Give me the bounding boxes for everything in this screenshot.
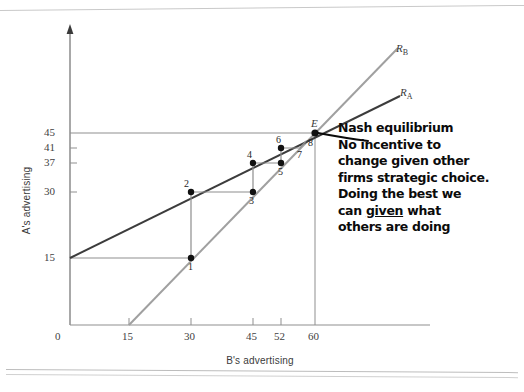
note-line-6-underlined: given [366,203,403,218]
y-tick-label-0: 0 [55,330,61,342]
curve-label-ra-sub: A [407,92,413,101]
curve-label-ra: RA [400,86,413,101]
y-axis-title: A's advertising [21,131,32,271]
x-tick-label-15: 15 [122,330,133,342]
point-label-6: 6 [276,134,281,145]
x-tick-label-45: 45 [246,330,257,342]
note-line-6-part-c: what [403,203,441,218]
note-line-4: firms strategic choice. [338,170,514,187]
point-label-4: 4 [247,149,252,160]
point-label-2: 2 [184,178,189,189]
y-axis-arrowhead [67,24,74,34]
curve-label-rb-sub: B [403,48,408,57]
x-tick-label-52: 52 [274,330,285,342]
note-line-3: change given other [338,153,514,170]
note-line-2: No incentive to [338,137,514,154]
curve-label-ra-text: R [400,86,407,98]
data-point-4 [250,160,256,166]
note-line-7: others are doing [338,219,514,236]
y-tick-label-45: 45 [44,126,55,138]
note-line-6-part-a: can [338,203,366,218]
x-tick-label-60: 60 [308,330,319,342]
note-line-5: Doing the best we [338,186,514,203]
note-line-1: Nash equilibrium [338,120,514,137]
point-label-8: 8 [308,137,313,148]
point-label-7: 7 [297,149,302,160]
equilibrium-label: E [311,117,318,129]
x-tick-label-30: 30 [184,330,195,342]
note-line-6: can given what [338,203,514,220]
handwritten-annotation: Nash equilibrium No incentive to change … [338,120,514,236]
y-tick-label-15: 15 [44,251,55,263]
figure-canvas: 45 41 37 30 15 0 15 30 45 52 60 A's adve… [0,0,524,392]
point-label-3: 3 [249,195,254,206]
curve-label-rb-text: R [396,42,403,54]
curve-label-rb: RB [396,42,408,57]
point-label-5: 5 [278,166,283,177]
point-label-1: 1 [188,261,193,272]
y-tick-label-41: 41 [44,141,55,153]
data-point-2 [188,189,194,195]
y-tick-label-30: 30 [44,185,55,197]
data-point-6 [278,145,284,151]
y-tick-label-37: 37 [44,156,55,168]
x-axis-title: B's advertising [140,355,380,366]
